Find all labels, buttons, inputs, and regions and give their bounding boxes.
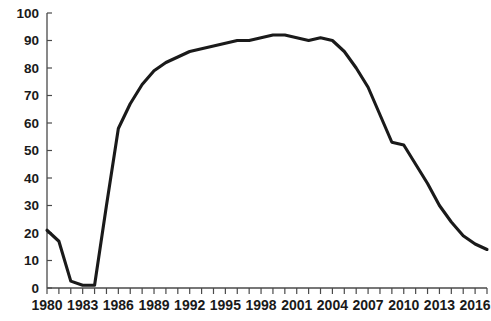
x-tick-label: 1983	[67, 297, 98, 313]
x-tick-label: 2001	[281, 297, 312, 313]
y-tick-label: 60	[24, 116, 39, 131]
line-chart: 0102030405060708090100 19801983198619891…	[0, 0, 491, 321]
x-tick-label: 2010	[388, 297, 419, 313]
chart-canvas: 0102030405060708090100 19801983198619891…	[0, 0, 491, 321]
y-tick-label: 40	[24, 171, 39, 186]
x-tick-label: 1980	[31, 297, 62, 313]
y-tick-label: 80	[24, 61, 39, 76]
x-tick-label: 1998	[245, 297, 276, 313]
y-tick-label: 10	[24, 253, 39, 268]
x-tick-label: 1992	[174, 297, 205, 313]
y-tick-label: 90	[24, 33, 39, 48]
x-tick-label: 2004	[317, 297, 348, 313]
y-axis-tick-marks	[47, 13, 52, 288]
y-tick-label: 100	[16, 6, 39, 21]
y-tick-label: 0	[31, 281, 39, 296]
x-tick-label: 2007	[353, 297, 384, 313]
x-tick-label: 1989	[138, 297, 169, 313]
x-axis-tick-marks	[47, 288, 487, 294]
data-series-line	[47, 35, 487, 285]
y-axis-tick-labels: 0102030405060708090100	[16, 6, 39, 296]
x-tick-label: 2016	[460, 297, 491, 313]
x-tick-label: 2013	[424, 297, 455, 313]
y-tick-label: 70	[24, 88, 39, 103]
x-tick-label: 1986	[103, 297, 134, 313]
y-tick-label: 50	[24, 143, 39, 158]
y-tick-label: 30	[24, 198, 39, 213]
x-tick-label: 1995	[210, 297, 241, 313]
x-axis-tick-labels: 1980198319861989199219951998200120042007…	[31, 297, 490, 313]
y-tick-label: 20	[24, 226, 39, 241]
